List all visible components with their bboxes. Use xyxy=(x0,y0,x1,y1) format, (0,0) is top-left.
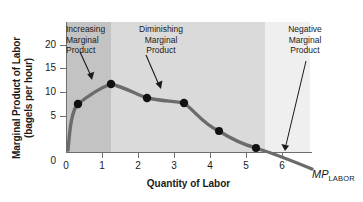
region-label-negative-line1: Negative xyxy=(272,24,338,35)
curve-series-label-subscript: LABOR xyxy=(329,174,355,183)
data-point-3 xyxy=(180,99,188,107)
data-point-5 xyxy=(252,144,260,152)
region-label-diminishing-line3: Product xyxy=(124,45,198,56)
data-point-2 xyxy=(143,94,151,102)
curve-series-label-main: MP xyxy=(312,168,329,180)
data-point-1 xyxy=(107,80,115,88)
arrow-diminishing-marginal-product xyxy=(146,55,162,89)
marginal-product-of-labor-chart: Marginal Product of Labor (bagels per ho… xyxy=(0,0,363,202)
region-label-diminishing-line1: Diminishing xyxy=(124,24,198,35)
region-label-increasing-line1: Increasing xyxy=(66,24,114,35)
region-label-negative-line3: Product xyxy=(272,45,338,56)
arrow-negative-marginal-product xyxy=(281,61,306,151)
region-label-negative-line2: Marginal xyxy=(272,35,338,46)
x-axis-title: Quantity of Labor xyxy=(67,178,310,189)
curve-series-label: MPLABOR xyxy=(312,168,355,183)
region-label-increasing-marginal-product: Increasing Marginal Product xyxy=(66,24,114,56)
arrow-increasing-marginal-product xyxy=(80,52,94,80)
data-point-4 xyxy=(215,127,223,135)
mp-labor-curve xyxy=(68,84,312,169)
region-label-increasing-line3: Product xyxy=(66,45,114,56)
region-label-diminishing-line2: Marginal xyxy=(124,35,198,46)
region-label-diminishing-marginal-product: Diminishing Marginal Product xyxy=(124,24,198,56)
data-point-0 xyxy=(74,100,82,108)
region-label-negative-marginal-product: Negative Marginal Product xyxy=(272,24,338,56)
region-label-increasing-line2: Marginal xyxy=(66,35,114,46)
